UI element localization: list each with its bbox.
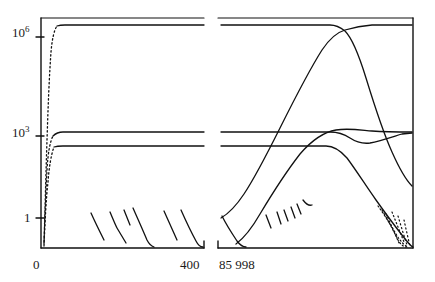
series-mid-upper-continued bbox=[221, 132, 412, 143]
series-upper-plateau-line bbox=[57, 25, 204, 26]
series-tick-stroke-6 bbox=[303, 200, 312, 205]
series-tick-stroke-3 bbox=[284, 210, 288, 221]
y-tick-base: 1 bbox=[24, 210, 31, 225]
series-tick-stroke-2 bbox=[277, 212, 281, 224]
plot-canvas bbox=[0, 0, 435, 282]
y-tick-label-1e6: 106 bbox=[12, 24, 30, 41]
series-mid-plateau-upper-line bbox=[53, 132, 204, 136]
series-decay-segment-3 bbox=[124, 210, 130, 225]
series-mid-lower-continued bbox=[221, 146, 413, 247]
series-decay-segment-1 bbox=[91, 213, 104, 240]
series-tick-stroke-5 bbox=[297, 204, 301, 214]
series-mid-plateau-lower-line bbox=[54, 146, 204, 147]
y-tick-base: 10 bbox=[12, 25, 25, 40]
series-right-left-edge-decay bbox=[222, 216, 246, 247]
y-tick-exponent: 6 bbox=[25, 24, 30, 34]
y-tick-label-1e3: 103 bbox=[12, 124, 30, 141]
x-tick-label-0: 0 bbox=[33, 257, 40, 273]
series-decay-segment-2 bbox=[110, 212, 126, 243]
series-upper-plateau-continued bbox=[221, 25, 412, 186]
x-tick-label-400: 400 bbox=[180, 257, 200, 273]
series-decay-segment-6 bbox=[181, 210, 203, 247]
figure-root: 106 103 1 0 400 85 998 bbox=[0, 0, 435, 282]
series-rising-to-peak bbox=[221, 25, 412, 218]
y-tick-label-1: 1 bbox=[24, 210, 31, 226]
series-tick-stroke-4 bbox=[291, 207, 295, 218]
series-decay-segment-4 bbox=[133, 208, 154, 247]
series-decay-segment-5 bbox=[164, 211, 177, 240]
x-tick-label-85998: 85 998 bbox=[219, 257, 255, 273]
series-tick-stroke-1 bbox=[266, 215, 271, 228]
y-tick-base: 10 bbox=[12, 125, 25, 140]
y-tick-exponent: 3 bbox=[25, 124, 30, 134]
